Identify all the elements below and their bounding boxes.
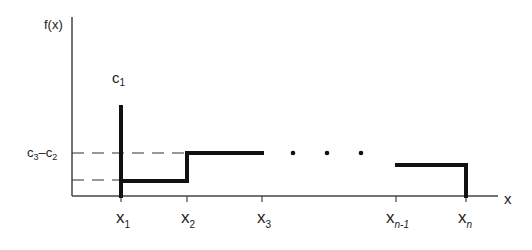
tick-label-xn: xn bbox=[458, 208, 473, 230]
x-tick-labels: x1 x2 x3 xn-1 xn bbox=[116, 208, 473, 230]
ellipsis-dots bbox=[291, 151, 364, 156]
y-axis-label: f(x) bbox=[44, 17, 63, 32]
x-axis-label: x bbox=[504, 190, 512, 207]
tick-label-x3: x3 bbox=[257, 208, 272, 230]
spike-label: c1 bbox=[112, 69, 126, 88]
tick-label-x2: x2 bbox=[181, 208, 196, 230]
x-ticks bbox=[121, 196, 466, 202]
tick-label-xn-1: xn-1 bbox=[386, 208, 409, 230]
level-label: c3–c2 bbox=[27, 145, 57, 162]
tick-label-x1: x1 bbox=[116, 208, 131, 230]
step-function-diagram: f(x) x c1 c3–c2 x1 x2 x3 xn-1 xn bbox=[0, 0, 532, 250]
